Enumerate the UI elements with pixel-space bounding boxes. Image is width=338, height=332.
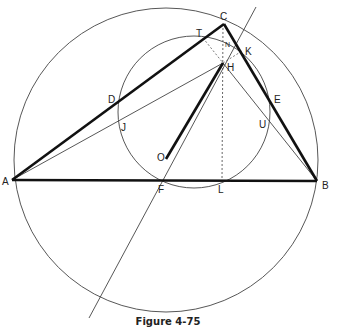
label-h: H: [227, 62, 234, 73]
segment-o-h: [166, 63, 223, 159]
line-through-h-o-f: [89, 7, 256, 318]
label-c: C: [220, 11, 227, 22]
label-b: B: [322, 180, 329, 191]
label-f: F: [158, 184, 164, 195]
altitude-c-l: [222, 24, 223, 181]
label-j: J: [121, 122, 126, 133]
label-k: K: [245, 46, 252, 57]
geometry-diagram: C T N K H D E J U O A F L B Figure 4-75: [0, 0, 338, 332]
circumcircle: [14, 8, 318, 312]
figure-caption: Figure 4-75: [136, 316, 201, 327]
side-b-c: [224, 24, 317, 181]
label-e: E: [274, 94, 281, 105]
line-b-h: [223, 63, 317, 181]
label-d: D: [108, 94, 115, 105]
label-l: L: [218, 184, 224, 195]
label-t: T: [196, 28, 202, 39]
side-a-b: [12, 180, 317, 181]
line-a-h: [12, 63, 223, 180]
label-a: A: [2, 176, 9, 187]
label-o: O: [157, 152, 165, 163]
dotted-t-h: [203, 38, 223, 63]
label-n: N: [225, 41, 230, 48]
side-a-c: [12, 24, 224, 180]
label-u: U: [259, 119, 266, 130]
